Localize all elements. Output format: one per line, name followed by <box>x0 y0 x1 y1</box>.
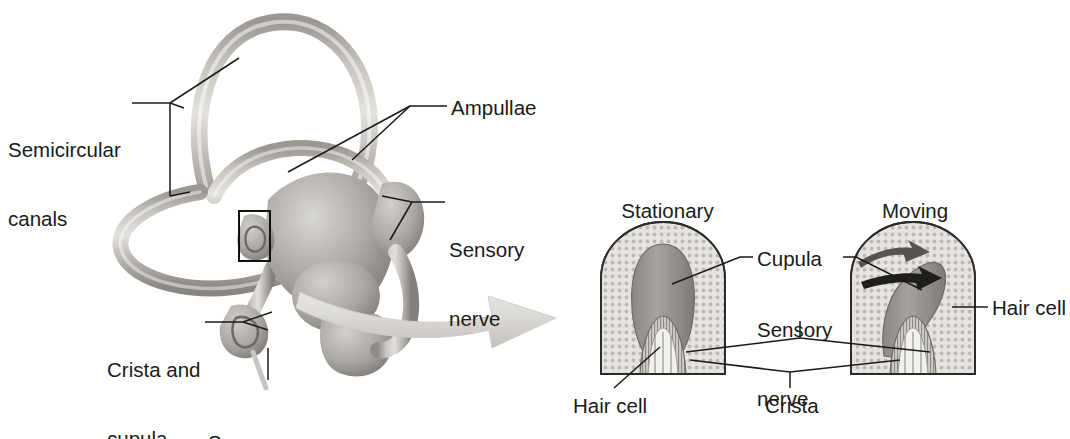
label-crista-and-cupula-line1: Crista and <box>107 358 200 381</box>
label-crista-and-cupula: Crista and cupula <box>107 312 200 439</box>
label-hair-cell-right: Hair cell <box>992 296 1066 319</box>
label-sensory-nerve: Sensory nerve <box>449 192 524 376</box>
heading-stationary: Stationary <box>615 199 720 222</box>
anterior-ampulla <box>220 304 269 358</box>
label-sensory-nerve-branch: Sensory nerve branch <box>208 385 340 439</box>
sensory-nerve-branch-filament <box>253 352 266 388</box>
panel-moving-group <box>851 222 975 374</box>
label-crista-and-cupula-line2: cupula <box>107 427 200 439</box>
label-cupula: Cupula <box>757 247 822 270</box>
heading-moving: Moving <box>865 199 965 222</box>
label-semicircular-canals-line2: canals <box>8 207 121 230</box>
label-sensory-nerve-line1: Sensory <box>449 238 524 261</box>
label-ampullae: Ampullae <box>451 96 536 119</box>
label-semicircular-canals-line1: Semicircular <box>8 138 121 161</box>
label-semicircular-canals: Semicircular canals <box>8 92 121 276</box>
label-sensory-nerve-right-line1: Sensory <box>757 318 832 341</box>
figure-canvas: Semicircular canals Ampullae Sensory ner… <box>0 0 1070 439</box>
label-sensory-nerve-line2: nerve <box>449 307 524 330</box>
panel-stationary-group <box>601 222 725 374</box>
label-sensory-nerve-branch-line1: Sensory nerve <box>208 431 340 439</box>
leader-semicircular-canals-b <box>170 103 184 108</box>
label-crista: Crista <box>765 394 819 417</box>
label-hair-cell-bottom: Hair cell <box>573 394 647 417</box>
